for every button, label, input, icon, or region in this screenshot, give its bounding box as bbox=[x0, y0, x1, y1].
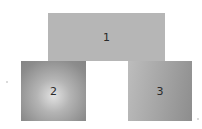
marker-dot-left bbox=[6, 81, 8, 83]
box-3-label: 3 bbox=[157, 85, 164, 98]
box-3: 3 bbox=[128, 61, 192, 121]
box-1-label: 1 bbox=[103, 31, 110, 44]
box-2: 2 bbox=[21, 61, 86, 121]
box-1: 1 bbox=[48, 13, 165, 61]
marker-dot-right bbox=[197, 118, 199, 120]
box-2-label: 2 bbox=[50, 85, 57, 98]
